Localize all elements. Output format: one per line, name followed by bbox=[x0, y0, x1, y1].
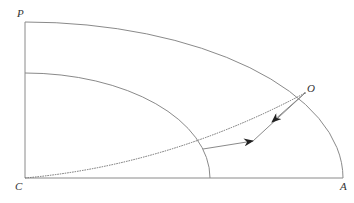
label-c: C bbox=[15, 181, 22, 192]
diagram-figure: P O C A bbox=[0, 0, 354, 203]
outer-arc bbox=[25, 22, 343, 178]
point-o bbox=[304, 92, 306, 94]
label-p: P bbox=[17, 8, 24, 19]
arrow-line-to-o bbox=[203, 141, 253, 149]
dotted-trajectory-curve bbox=[25, 93, 305, 178]
diagram-canvas bbox=[0, 0, 354, 203]
label-o: O bbox=[307, 83, 315, 94]
label-a: A bbox=[340, 181, 347, 192]
inner-arc bbox=[25, 73, 210, 178]
